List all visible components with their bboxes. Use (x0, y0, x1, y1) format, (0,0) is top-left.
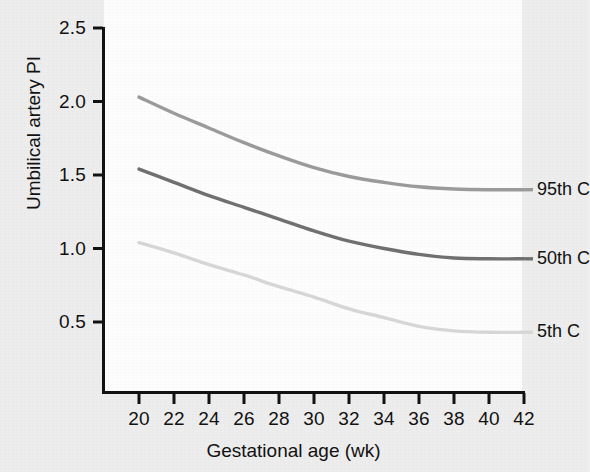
series-lines (139, 97, 524, 332)
y-axis-tick-label: 0.5 (0, 311, 86, 333)
series-line (139, 169, 524, 259)
series-label-50th-c: 50th C (537, 248, 590, 269)
series-line (139, 243, 524, 333)
series-label-95th-c: 95th C (537, 179, 590, 200)
x-axis-tick-label: 42 (499, 408, 549, 430)
series-line (139, 97, 524, 190)
series-label-5th-c: 5th C (537, 321, 580, 342)
x-axis-ticks (139, 393, 524, 404)
y-axis-ticks (93, 28, 103, 322)
legend-swatches (525, 190, 533, 333)
x-axis-title: Gestational age (wk) (0, 440, 587, 462)
y-axis-title-container: Umbilical artery PI (21, 13, 47, 253)
y-axis-title: Umbilical artery PI (21, 13, 47, 253)
